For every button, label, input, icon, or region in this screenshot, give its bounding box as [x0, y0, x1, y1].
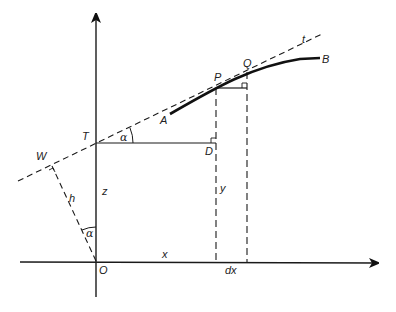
right-angle-mark-d [211, 138, 216, 143]
label-d: D [205, 145, 213, 157]
label-y: y [219, 182, 227, 194]
label-alpha-t: α [120, 131, 128, 144]
right-angle-mark-q [242, 83, 247, 88]
label-q: Q [243, 57, 252, 69]
label-t-point: T [82, 130, 90, 142]
label-dx: dx [225, 264, 237, 276]
perpendicular-h [52, 166, 96, 261]
label-b: B [322, 53, 329, 65]
label-x: x [161, 248, 168, 260]
right-angle-mark-w [49, 168, 55, 172]
label-a: A [159, 114, 167, 126]
label-t-tangent: t [302, 33, 306, 45]
diagram-canvas: A B P Q t T D W O x y z h dx α α [0, 0, 396, 312]
angle-arc-t [130, 128, 133, 143]
horizontal-axis [20, 262, 378, 263]
tangent-line [18, 34, 322, 181]
label-alpha-o: α [86, 227, 94, 240]
label-h: h [69, 192, 75, 204]
label-z: z [101, 185, 108, 197]
label-o: O [99, 264, 108, 276]
label-w: W [36, 150, 48, 162]
label-p: P [214, 71, 222, 83]
